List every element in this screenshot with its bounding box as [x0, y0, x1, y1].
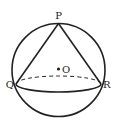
cone-base-back-arc — [16, 76, 101, 84]
label-q: Q — [6, 79, 14, 90]
cone-base-front-arc — [16, 84, 101, 92]
center-point — [57, 67, 60, 70]
label-p: P — [55, 10, 62, 21]
slant-edge-pq — [16, 24, 59, 85]
label-o: O — [62, 64, 70, 75]
cone-in-sphere-diagram: P O Q R — [0, 0, 117, 126]
label-r: R — [103, 79, 111, 90]
